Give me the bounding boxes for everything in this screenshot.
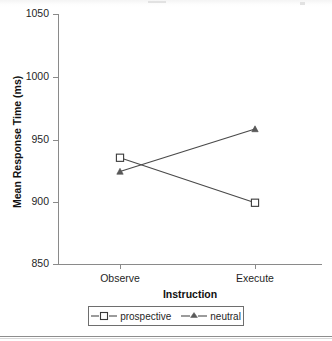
legend-label-neutral: neutral — [210, 311, 241, 322]
filled-triangle-icon — [181, 311, 207, 321]
page-divider-rule — [0, 336, 332, 337]
page-divider-rule-shadow — [0, 338, 332, 339]
series-neutral — [117, 126, 258, 174]
legend-entry-neutral: neutral — [181, 311, 241, 322]
legend-label-prospective: prospective — [120, 311, 171, 322]
line-chart-figure: Mean Response Time (ms) 1050 1000 950 90… — [0, 0, 332, 341]
data-point-prospective-observe — [116, 154, 123, 161]
plot-area — [0, 0, 332, 341]
legend: prospective neutral — [88, 306, 244, 326]
legend-entry-prospective: prospective — [91, 311, 171, 322]
series-prospective — [116, 154, 258, 206]
data-point-neutral-execute — [252, 126, 258, 132]
series-line-neutral — [120, 129, 255, 172]
data-point-prospective-execute — [251, 199, 258, 206]
open-square-icon — [91, 311, 117, 321]
